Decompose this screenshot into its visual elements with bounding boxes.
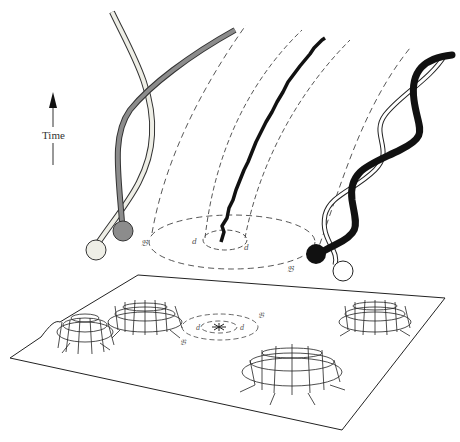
light-particle <box>86 240 106 260</box>
gray-worldline <box>113 30 235 241</box>
hollow-worldline <box>324 55 445 281</box>
slice-outer-left: 𝔅 <box>180 338 187 347</box>
time-label: Time <box>42 129 65 141</box>
hollow-particle <box>333 261 353 281</box>
inner-dashed-tube <box>203 30 350 250</box>
inner-label-left: d <box>192 236 197 246</box>
arrow-up-icon <box>49 92 57 108</box>
collapsed-star-icon <box>212 323 226 331</box>
jagged-worldline <box>221 38 325 242</box>
slice-outer-right: 𝔅 <box>258 311 265 320</box>
gray-particle <box>113 221 133 241</box>
spacetime-diagram: Time 𝔅 𝔅 d d <box>0 0 460 442</box>
black-particle <box>306 244 326 264</box>
inner-label-right: d <box>244 242 249 252</box>
outer-label-left: 𝔅 <box>141 238 149 248</box>
spatial-slice <box>10 275 445 430</box>
time-axis: Time <box>38 92 70 165</box>
outer-label-right: 𝔅 <box>287 264 295 274</box>
